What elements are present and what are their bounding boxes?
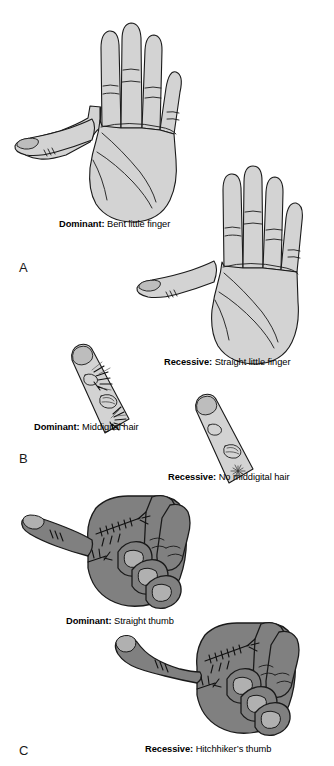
caption-description: No middigital hair	[216, 472, 289, 482]
illustration-finger-no-middigital-hair	[196, 394, 253, 483]
panel-letter-a: A	[19, 261, 28, 274]
caption-lead: Recessive:	[164, 357, 212, 367]
caption-lead: Dominant:	[59, 219, 105, 229]
caption-dominant-bent-little-finger: Dominant: Bent little finger	[59, 219, 170, 230]
caption-description: Straight little finger	[212, 357, 290, 367]
genetics-traits-figure: .lskin { fill:#d3d3d3; stroke:#1a1a1a; s…	[0, 0, 334, 766]
caption-lead: Dominant:	[66, 616, 112, 626]
caption-recessive-no-middigital-hair: Recessive: No middigital hair	[168, 472, 290, 483]
caption-lead: Recessive:	[145, 744, 193, 754]
illustration-finger-middigital-hair	[72, 344, 129, 433]
caption-recessive-straight-little-finger: Recessive: Straight little finger	[164, 357, 291, 368]
caption-description: Middigital hair	[80, 422, 139, 432]
illustration-hand-bent-little-finger	[15, 23, 181, 222]
caption-lead: Recessive:	[168, 472, 216, 482]
caption-description: Bent little finger	[105, 219, 171, 229]
caption-description: Straight thumb	[112, 616, 174, 626]
panel-letter-c: C	[19, 744, 28, 757]
caption-recessive-hitchhikers-thumb: Recessive: Hitchhiker’s thumb	[145, 744, 271, 755]
panel-letter-b: B	[19, 452, 28, 465]
illustration-hand-straight-little-finger	[137, 166, 302, 364]
caption-lead: Dominant:	[34, 422, 80, 432]
figure-illustrations: .lskin { fill:#d3d3d3; stroke:#1a1a1a; s…	[0, 0, 334, 766]
illustration-fist-hitchhikers-thumb	[115, 623, 299, 736]
caption-dominant-middigital-hair: Dominant: Middigital hair	[34, 422, 139, 433]
caption-description: Hitchhiker’s thumb	[193, 744, 271, 754]
caption-dominant-straight-thumb: Dominant: Straight thumb	[66, 616, 174, 627]
illustration-fist-straight-thumb	[22, 496, 190, 609]
